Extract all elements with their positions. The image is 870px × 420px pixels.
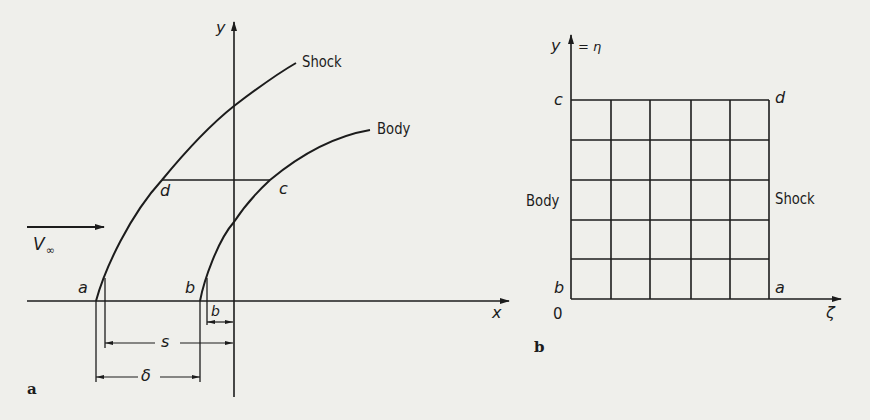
panel-b-graphics bbox=[571, 35, 841, 299]
shock-label: Shock bbox=[302, 55, 342, 70]
dimension-s-label: s bbox=[161, 334, 169, 350]
corner-d-label: d bbox=[775, 90, 785, 106]
panel-a-x-axis-label: x bbox=[492, 305, 501, 321]
point-c-label: c bbox=[279, 181, 288, 197]
panel-b-zeta-axis-label: ζ bbox=[826, 305, 835, 321]
panel-a-graphics bbox=[27, 22, 509, 397]
panel-b-y-axis-label: y bbox=[551, 38, 560, 54]
panel-a-y-axis-label: y bbox=[216, 20, 225, 36]
shock-curve bbox=[96, 63, 296, 301]
corner-b-label: b bbox=[554, 280, 564, 296]
origin-label: 0 bbox=[553, 307, 563, 322]
body-curve bbox=[200, 130, 370, 301]
body-label: Body bbox=[377, 122, 410, 137]
shock-fitting-coordinate-transform-figure: y x Shock Body d c a b V∞ b s δ a y = η … bbox=[0, 0, 870, 420]
shock-side-label: Shock bbox=[775, 192, 815, 207]
point-b-label: b bbox=[185, 280, 195, 296]
panel-b-eta-label: = η bbox=[578, 40, 601, 53]
freestream-velocity-label: V∞ bbox=[33, 236, 55, 253]
dimension-b-label: b bbox=[211, 304, 220, 318]
corner-c-label: c bbox=[554, 92, 563, 108]
corner-a-label: a bbox=[775, 280, 785, 296]
panel-a-label: a bbox=[27, 382, 37, 397]
diagram-lines bbox=[0, 0, 870, 420]
point-d-label: d bbox=[160, 183, 170, 199]
panel-b-label: b bbox=[534, 340, 545, 355]
body-side-label: Body bbox=[526, 194, 559, 209]
point-a-label: a bbox=[78, 280, 88, 296]
dimension-delta-label: δ bbox=[141, 368, 151, 384]
